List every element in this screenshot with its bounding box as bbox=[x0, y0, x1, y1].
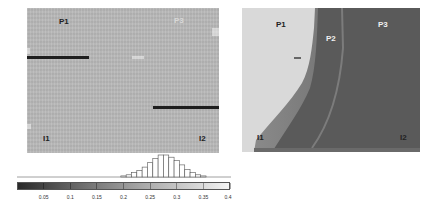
histogram-bar bbox=[131, 173, 136, 177]
artifact-speck bbox=[212, 28, 219, 36]
colorbar-tick-mark bbox=[150, 183, 151, 189]
colorbar-tick-mark bbox=[176, 183, 177, 189]
histogram-bar bbox=[158, 155, 163, 177]
histogram-bar bbox=[153, 158, 158, 177]
histogram-bar bbox=[174, 161, 179, 178]
histogram-bar bbox=[185, 169, 190, 177]
label-p3: P3 bbox=[174, 17, 184, 25]
histogram-bar bbox=[126, 175, 131, 177]
histogram-bar bbox=[201, 176, 206, 177]
histogram-bar bbox=[169, 157, 174, 177]
colorbar-tick-mark bbox=[43, 183, 44, 189]
label-p3: P3 bbox=[378, 21, 388, 29]
colorbar-tick-label: 0.2 bbox=[120, 194, 127, 200]
label-i1: I1 bbox=[43, 135, 50, 143]
colorbar-tick-label: 0.25 bbox=[145, 194, 155, 200]
histogram-bar bbox=[147, 163, 152, 177]
histogram-bar bbox=[121, 176, 126, 177]
histogram-bar bbox=[179, 165, 184, 177]
colorbar-tick-mark bbox=[96, 183, 97, 189]
label-i2: I2 bbox=[199, 135, 206, 143]
left-image-panel: P1 P3 I1 I2 bbox=[27, 8, 219, 153]
colorbar-tick-label: 0.35 bbox=[199, 194, 209, 200]
colorbar-tick-mark bbox=[203, 183, 204, 189]
artifact-speck bbox=[27, 124, 31, 129]
value-histogram bbox=[17, 150, 231, 178]
label-i2: I2 bbox=[400, 134, 407, 142]
label-p1: P1 bbox=[59, 18, 69, 26]
colorbar-tick-label: 0.05 bbox=[39, 194, 49, 200]
histogram-bar bbox=[137, 170, 142, 177]
histogram-bar bbox=[195, 175, 200, 177]
histogram-bar bbox=[190, 173, 195, 177]
histogram-bar bbox=[142, 167, 147, 177]
artifact-speck bbox=[132, 56, 144, 59]
label-p2: P2 bbox=[326, 35, 336, 43]
colorbar-tick-label: 0.15 bbox=[92, 194, 102, 200]
colorbar-tick-label: 0.1 bbox=[67, 194, 74, 200]
colorbar-tick-mark bbox=[123, 183, 124, 189]
boundary-line-right bbox=[153, 106, 219, 109]
label-p1: P1 bbox=[276, 21, 286, 29]
segmentation-map bbox=[242, 8, 420, 152]
artifact-speck bbox=[27, 48, 30, 54]
colorbar-tick-mark bbox=[230, 183, 231, 189]
histogram-bar bbox=[163, 155, 168, 177]
right-image-panel: P1 P2 P3 I1 I2 bbox=[242, 8, 420, 152]
colorbar-tick-label: 0.4 bbox=[225, 194, 232, 200]
label-i1: I1 bbox=[257, 134, 264, 142]
colorbar-tick-label: 0.3 bbox=[173, 194, 180, 200]
boundary-line-left bbox=[27, 56, 89, 59]
colorbar-tick-mark bbox=[70, 183, 71, 189]
